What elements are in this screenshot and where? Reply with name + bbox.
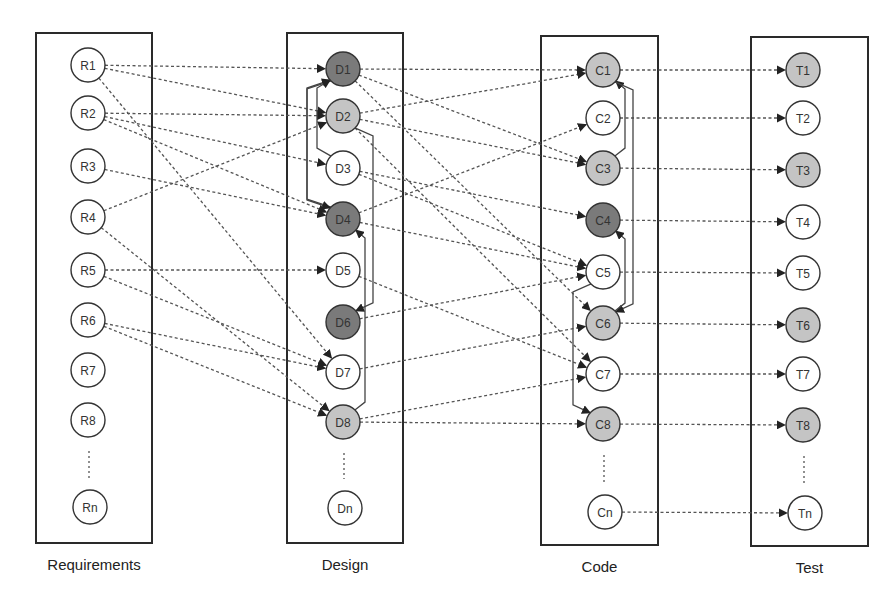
node-label: R6	[80, 314, 96, 328]
trace-link-cn-tn	[622, 512, 787, 513]
node-label: Dn	[337, 502, 352, 516]
node-t3[interactable]: T3	[786, 153, 820, 187]
trace-link-r4-d8	[101, 228, 329, 411]
node-label: T4	[796, 216, 810, 230]
node-label: C4	[595, 214, 611, 228]
node-tn[interactable]: Tn	[788, 496, 822, 530]
node-t2[interactable]: T2	[786, 101, 820, 135]
node-label: R5	[80, 264, 96, 278]
node-d3[interactable]: D3	[326, 151, 360, 185]
node-label: T6	[796, 319, 810, 333]
node-r2[interactable]: R2	[71, 96, 105, 130]
trace-link-d6-c5	[360, 275, 586, 318]
node-r8[interactable]: R8	[71, 403, 105, 437]
node-label: R7	[80, 364, 96, 378]
node-r5[interactable]: R5	[71, 253, 105, 287]
node-dn[interactable]: Dn	[328, 491, 362, 525]
trace-links	[99, 65, 787, 513]
node-label: C1	[595, 64, 611, 78]
trace-link-r3-d4	[105, 169, 326, 215]
node-label: R4	[80, 211, 96, 225]
node-cn[interactable]: Cn	[588, 495, 622, 529]
node-label: C6	[595, 317, 611, 331]
node-r1[interactable]: R1	[71, 48, 105, 82]
node-label: T7	[796, 368, 810, 382]
column-title-requirements: Requirements	[47, 556, 140, 573]
trace-link-d2-c1	[360, 73, 586, 113]
node-label: D5	[335, 264, 351, 278]
node-r7[interactable]: R7	[71, 353, 105, 387]
trace-link-r6-d7	[105, 323, 326, 368]
trace-link-r1-d7	[99, 78, 332, 358]
node-c4[interactable]: C4	[586, 203, 620, 237]
trace-link-d1-c6	[355, 81, 590, 311]
node-d4[interactable]: D4	[326, 202, 360, 236]
node-r4[interactable]: R4	[71, 200, 105, 234]
node-c2[interactable]: C2	[586, 101, 620, 135]
trace-link-d3-c5	[359, 174, 587, 265]
node-label: Cn	[597, 506, 612, 520]
column-title-code: Code	[582, 558, 618, 575]
node-c3[interactable]: C3	[586, 151, 620, 185]
node-t5[interactable]: T5	[786, 256, 820, 290]
node-label: D6	[335, 316, 351, 330]
node-r6[interactable]: R6	[71, 303, 105, 337]
node-t1[interactable]: T1	[786, 53, 820, 87]
node-label: R3	[80, 160, 96, 174]
trace-link-c4-t4	[620, 220, 785, 222]
node-label: Rn	[82, 501, 97, 515]
trace-link-r6-d8	[104, 326, 327, 415]
node-t4[interactable]: T4	[786, 205, 820, 239]
node-label: C3	[595, 162, 611, 176]
dependency-link-d1-d4	[307, 81, 331, 208]
trace-link-c5-t5	[620, 272, 785, 273]
node-d6[interactable]: D6	[326, 305, 360, 339]
node-label: C7	[595, 368, 611, 382]
column-titles: RequirementsDesignCodeTest	[47, 556, 824, 576]
node-rn[interactable]: Rn	[73, 490, 107, 524]
artifact-nodes: R1R2R3R4R5R6R7R8RnD1D2D3D4D5D6D7D8DnC1C2…	[71, 48, 822, 530]
node-label: T5	[796, 267, 810, 281]
node-label: D3	[335, 162, 351, 176]
node-label: D1	[335, 63, 351, 77]
trace-link-d2-c7	[355, 128, 590, 361]
node-d8[interactable]: D8	[326, 405, 360, 439]
node-label: C8	[595, 418, 611, 432]
trace-link-d2-c3	[360, 119, 586, 164]
trace-link-r1-d1	[105, 65, 325, 68]
node-label: Tn	[798, 507, 812, 521]
node-t8[interactable]: T8	[786, 408, 820, 442]
trace-link-r5-d7	[104, 276, 327, 365]
trace-link-d8-c7	[360, 377, 586, 419]
node-d1[interactable]: D1	[326, 52, 360, 86]
node-d2[interactable]: D2	[326, 99, 360, 133]
node-label: T8	[796, 419, 810, 433]
trace-link-d5-c7	[359, 276, 587, 367]
node-label: T2	[796, 112, 810, 126]
trace-link-c8-t8	[620, 424, 785, 425]
trace-link-r2-d2	[105, 113, 325, 116]
trace-link-c6-t6	[620, 323, 785, 325]
node-c1[interactable]: C1	[586, 53, 620, 87]
trace-link-d7-c6	[360, 326, 586, 369]
trace-link-d8-c8	[360, 422, 585, 424]
node-d5[interactable]: D5	[326, 253, 360, 287]
node-t7[interactable]: T7	[786, 357, 820, 391]
column-title-design: Design	[322, 556, 369, 573]
node-label: T1	[796, 64, 810, 78]
node-r3[interactable]: R3	[71, 149, 105, 183]
node-c5[interactable]: C5	[586, 255, 620, 289]
node-label: R1	[80, 59, 96, 73]
trace-link-r1-d2	[105, 68, 326, 112]
node-c6[interactable]: C6	[586, 306, 620, 340]
dependency-link-c5-c8	[573, 284, 591, 413]
traceability-diagram: R1R2R3R4R5R6R7R8RnD1D2D3D4D5D6D7D8DnC1C2…	[0, 0, 894, 597]
node-t6[interactable]: T6	[786, 308, 820, 342]
node-c8[interactable]: C8	[586, 407, 620, 441]
node-label: T3	[796, 164, 810, 178]
trace-link-r2-d3	[105, 117, 326, 165]
trace-link-d1-c3	[359, 75, 586, 162]
trace-link-d3-c4	[360, 171, 586, 216]
node-d7[interactable]: D7	[326, 355, 360, 389]
node-c7[interactable]: C7	[586, 357, 620, 391]
